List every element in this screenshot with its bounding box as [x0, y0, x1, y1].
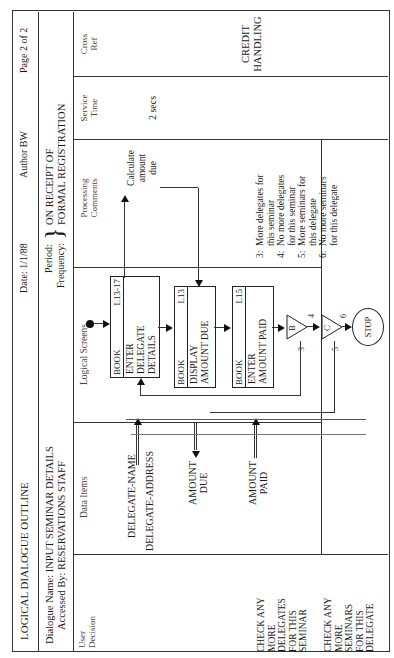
data-item-amount-paid-1: AMOUNT [248, 458, 259, 508]
divider-processing-service [73, 139, 388, 140]
arrow-right-icon [121, 195, 129, 202]
screen-box-enter-delegate-details: BOOKL13-17 ENTER DELEGATE DETAILS [110, 276, 160, 378]
loop-c-horizontal [334, 341, 335, 413]
data-item-amount-paid-2: PAID [259, 458, 270, 508]
col-header-crossref-2: Ref [90, 13, 99, 75]
decision-c-label: C [323, 325, 332, 331]
processing-calc-2: amount [138, 143, 148, 193]
decision-legend: 3:More delegates for this seminar 4:No m… [255, 174, 339, 258]
user-decision-1: CHECK ANY MORE DELEGATES FOR THIS SEMINA… [256, 597, 309, 652]
divider-data-screens [73, 422, 321, 423]
screen-to-processing-line [124, 200, 125, 278]
divider-screens-processing [73, 267, 321, 268]
data-item-delegate-address: DELEGATE-ADDRESS [145, 451, 156, 551]
frequency-label: Frequency: [56, 243, 67, 288]
col-header-logical-screens: Logical Screens [80, 324, 90, 385]
processing-return-horizontal [198, 188, 199, 280]
dialogue-row-divider [73, 12, 74, 652]
legend-item: 5:More seminars for [297, 174, 308, 258]
decision-c-out-label: 6 [340, 314, 348, 318]
processing-calc-3: due [149, 143, 159, 193]
arrow-down-icon [166, 324, 173, 332]
loop-b-horizontal [300, 341, 301, 396]
cross-ref-line1: CREDIT [240, 13, 251, 75]
period-label: Period: [44, 244, 55, 273]
data-items-rule-2 [131, 434, 366, 435]
arrow-down-icon [103, 320, 110, 328]
decision-b-label: B [288, 325, 297, 331]
document-date: Date: 1/1/88 [19, 243, 30, 293]
loop-b-vertical [140, 395, 300, 396]
accessed-by: Accessed By: RESERVATIONS STAFF [56, 461, 67, 630]
document-title: LOGICAL DIALOGUE OUTLINE [19, 482, 31, 640]
arrow-left-icon [192, 451, 200, 458]
flow-screen-to-amount-due [194, 423, 197, 450]
arrow-down-icon [313, 323, 320, 331]
arrow-down-icon [224, 324, 231, 332]
data-item-delegate-name: DELEGATE-NAME [127, 454, 138, 538]
screen-box-enter-amount-paid: BOOKL15 ENTER AMOUNT PAID [232, 286, 274, 388]
flow-amount-paid-to-screen [254, 423, 257, 458]
legend-item: 6:No more seminars [318, 174, 329, 258]
dialogue-name: Dialogue Name: INPUT SEMINAR DETAILS [44, 446, 55, 644]
brace-icon: } [39, 228, 69, 240]
arrow-down-icon [345, 323, 352, 331]
data-item-amount-due-2: DUE [199, 458, 210, 508]
divider-user-data [73, 554, 388, 555]
data-items-rule-1 [126, 419, 366, 420]
data-item-amount-due-1: AMOUNT [188, 458, 199, 508]
cross-ref-line2: HANDLING [252, 13, 263, 75]
user-decision-2: CHECK ANY MORE SEMINARS FOR THIS DELEGAT… [323, 597, 376, 652]
processing-return-vertical [160, 187, 198, 188]
loop-c-vertical [210, 412, 334, 413]
stop-terminator: STOP [352, 308, 384, 346]
arrow-left-icon [195, 280, 203, 287]
start-dot [86, 320, 94, 328]
document-page: Page 2 of 2 [19, 28, 30, 73]
period-value-line1: ON RECEIPT OF [44, 149, 55, 225]
screen-box-display-amount-due: BOOKL13 DISPLAY AMOUNT DUE [174, 286, 216, 388]
col-header-user-decision-2: Decision [88, 616, 97, 648]
col-header-data-items: Data Items [80, 477, 90, 518]
decision-b-out-label: 4 [308, 314, 316, 318]
col-header-service-2: Time [90, 78, 99, 138]
legend-item: 3:More delegates for [255, 174, 266, 258]
arrow-right-icon [137, 378, 145, 385]
service-time-value: 2 secs [148, 78, 159, 138]
document-author: Author BW [19, 131, 30, 178]
title-row-divider [38, 12, 39, 652]
logical-dialogue-outline-page: LOGICAL DIALOGUE OUTLINE Date: 1/1/88 Au… [0, 0, 394, 658]
flow-delegate-to-screen [136, 423, 139, 465]
col-header-processing-2: Comments [90, 158, 99, 238]
period-value-line2: FORMAL REGISTRATION [56, 104, 67, 225]
loop-b-top [140, 384, 141, 396]
arrow-down-icon [278, 324, 285, 332]
divider-service-crossref [73, 76, 388, 77]
processing-calc-1: Calculate [127, 143, 137, 193]
legend-item: 4:No more delegates [276, 174, 287, 258]
